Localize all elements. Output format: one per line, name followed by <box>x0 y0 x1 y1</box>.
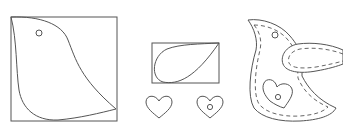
heart-plain-outline <box>146 96 172 118</box>
wing-pattern <box>152 43 219 83</box>
assembled-bird <box>248 20 343 122</box>
heart-plain <box>146 96 172 118</box>
bird-body-pattern <box>11 17 117 121</box>
bird-body-outline <box>11 17 116 120</box>
wing-outline <box>154 43 219 83</box>
heart-button <box>197 96 223 118</box>
pattern-diagram <box>0 0 343 133</box>
button-hole-icon <box>207 104 212 109</box>
eye-hole-icon <box>36 30 42 36</box>
assembled-wing-outline <box>282 43 343 72</box>
wing-rect-frame <box>152 43 219 83</box>
heart-button-outline <box>197 96 223 118</box>
